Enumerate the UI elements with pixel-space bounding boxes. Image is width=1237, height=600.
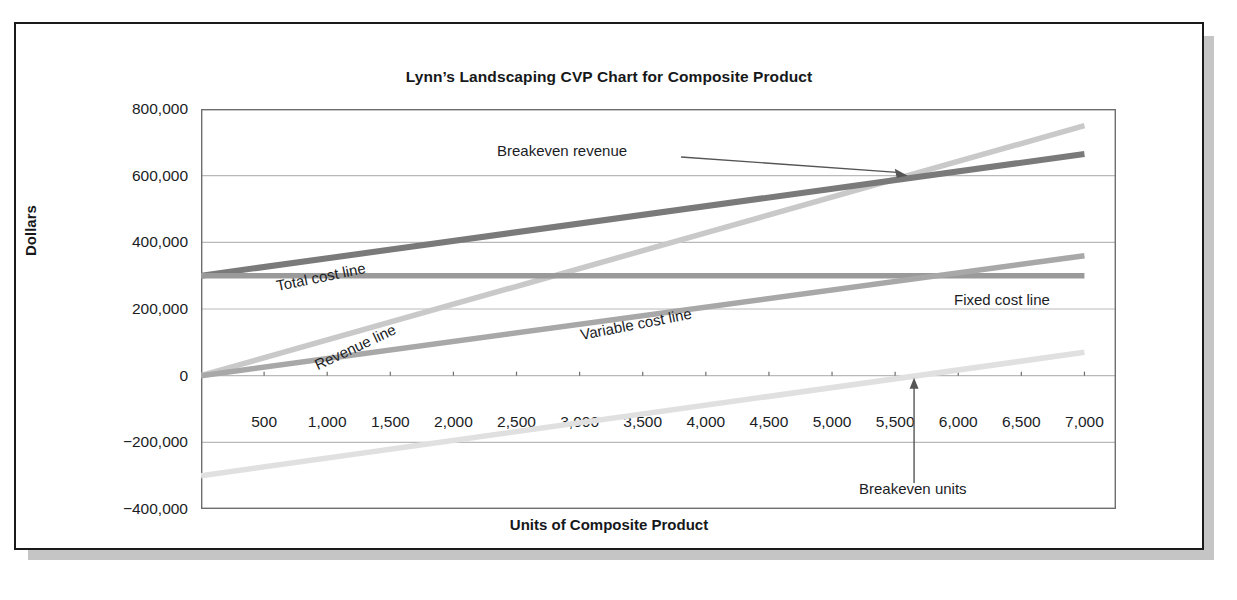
series-label-fixed-cost: Fixed cost line (954, 291, 1050, 308)
y-axis-tick-labels: 800,000600,000400,000200,0000−200,000−40… (76, 109, 188, 509)
y-tick-label: −400,000 (123, 500, 188, 518)
y-tick-label: 600,000 (132, 167, 188, 185)
y-tick-label: 200,000 (132, 300, 188, 318)
leader-line-breakeven-revenue (681, 157, 901, 173)
y-tick-label: 800,000 (132, 100, 188, 118)
series-line-revenue-line (201, 126, 1084, 376)
annotation-breakeven-revenue: Breakeven revenue (497, 142, 627, 159)
series-line-profit-line (201, 352, 1084, 475)
cvp-chart: Lynn’s Landscaping CVP Chart for Composi… (16, 24, 1202, 548)
annotation-breakeven-units: Breakeven units (859, 480, 967, 497)
y-tick-label: 400,000 (132, 233, 188, 251)
plot-area (201, 109, 1116, 509)
y-tick-label: −200,000 (123, 433, 188, 451)
y-axis-title: Dollars (22, 205, 39, 256)
chart-title: Lynn’s Landscaping CVP Chart for Composi… (16, 68, 1202, 86)
x-axis-title: Units of Composite Product (16, 516, 1202, 533)
plot-svg (201, 109, 1116, 509)
y-tick-label: 0 (179, 367, 188, 385)
series-line-total-cost-line (201, 154, 1084, 276)
chart-page-frame: Lynn’s Landscaping CVP Chart for Composi… (14, 22, 1204, 550)
